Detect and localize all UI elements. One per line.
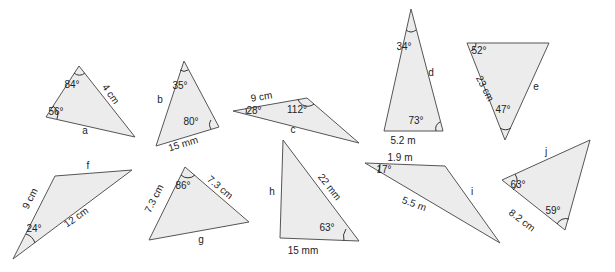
triangle-shape [384,9,443,131]
angle-label: 63° [510,179,525,190]
triangle-h: h22 mm63°15 mm [269,140,359,256]
side-label: 9 cm [250,89,273,103]
triangle-f: f9 cm24°12 cm [13,160,132,259]
triangle-diagram-canvas: 84°56°4 cma35°80°b15 mm9 cm112°28°c34°d7… [0,0,615,272]
triangle-shape [46,66,135,137]
side-label: c [291,124,296,135]
angle-label: 56° [48,106,63,117]
triangle-a: 84°56°4 cma [46,66,135,137]
side-label: g [198,234,204,245]
angle-label: 34° [396,41,411,52]
angle-label: 63° [319,222,334,233]
side-label: d [428,67,434,78]
angle-label: 112° [287,104,307,115]
angle-label: 52° [471,45,486,56]
triangles-worksheet: 84°56°4 cma35°80°b15 mm9 cm112°28°c34°d7… [0,0,615,272]
side-label: 8.2 cm [507,207,538,234]
triangle-i: 1.9 m17°i5.5 m [365,152,500,243]
triangle-e: 52°23 cme47° [467,43,549,140]
triangle-c: 9 cm112°28°c [233,89,359,143]
triangle-b: 35°80°b15 mm [156,61,219,153]
side-label: 9 cm [20,186,40,210]
angle-label: 73° [408,115,423,126]
side-label: a [82,125,88,136]
angle-label: 59° [545,205,560,216]
triangle-d: 34°d73°5.2 m [384,9,443,146]
angle-label: 17° [376,164,391,175]
triangle-shape [156,61,219,146]
side-label: b [157,94,163,105]
angle-label: 80° [183,116,198,127]
angle-label: 86° [175,180,190,191]
side-label: 15 mm [288,245,319,256]
side-label: j [544,146,547,157]
angle-label: 84° [64,79,79,90]
triangle-shape [149,167,249,240]
side-label: 1.9 m [387,152,412,163]
side-label: h [269,186,275,197]
angle-label: 24° [26,223,41,234]
angle-label: 47° [495,104,510,115]
triangle-g: 86°7.3 cm7.3 cmg [142,167,249,245]
angle-label: 28° [246,105,261,116]
side-label: e [533,81,539,92]
angle-label: 35° [172,80,187,91]
side-label: f [87,160,90,171]
triangle-shape [365,163,500,243]
side-label: 7.3 cm [142,183,165,215]
side-label: 5.2 m [390,135,415,146]
triangle-j: j63°59°8.2 cm [502,140,590,234]
side-label: i [471,186,473,197]
